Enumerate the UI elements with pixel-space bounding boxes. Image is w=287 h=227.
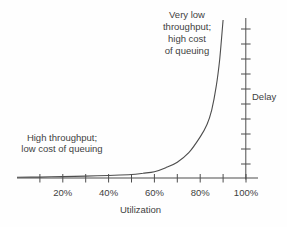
annotation-line: throughput; bbox=[140, 21, 234, 33]
x-tick-label-100: 100% bbox=[226, 187, 266, 198]
x-tick-label-40: 40% bbox=[89, 187, 129, 198]
annotation-line: of queuing bbox=[140, 45, 234, 57]
annotation-line: high cost bbox=[140, 33, 234, 45]
annotation-line: low cost of queuing bbox=[7, 143, 117, 154]
x-tick-label-60: 60% bbox=[134, 187, 174, 198]
x-axis-title: Utilization bbox=[100, 204, 181, 215]
annotation-low-cost-of-queuing: High throughput; low cost of queuing bbox=[7, 132, 117, 154]
annotation-line: High throughput; bbox=[7, 132, 117, 143]
annotation-line: Very low bbox=[140, 9, 234, 21]
y-axis-title: Delay bbox=[252, 91, 276, 102]
queuing-delay-chart: Very low throughput; high cost of queuin… bbox=[0, 0, 287, 227]
x-tick-label-20: 20% bbox=[43, 187, 83, 198]
x-tick-label-80: 80% bbox=[180, 187, 220, 198]
annotation-high-cost-of-queuing: Very low throughput; high cost of queuin… bbox=[140, 9, 234, 57]
